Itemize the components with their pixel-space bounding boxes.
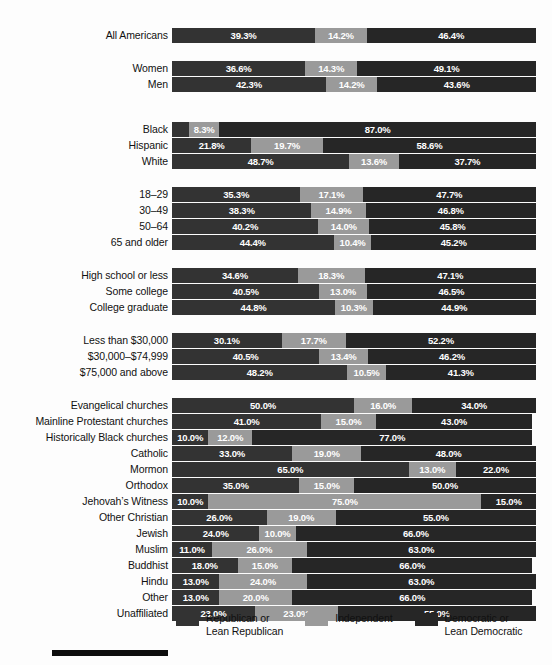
bar-segment-ind: 75.0% — [208, 494, 481, 509]
bar-segment-ind: 13.6% — [349, 154, 399, 169]
bar-segment-rep: 44.4% — [172, 235, 334, 250]
bar-segment-dem: 63.0% — [307, 542, 536, 557]
bar-segment-rep: 48.7% — [172, 154, 349, 169]
bar-segment-ind: 10.3% — [335, 300, 372, 315]
row-label: All Americans — [0, 28, 172, 43]
bar-segment-dem: 63.0% — [307, 574, 536, 589]
row-label: Muslim — [0, 542, 172, 557]
chart-row: Buddhist18.0%15.0%66.0% — [0, 558, 552, 573]
row-label: Other Christian — [0, 510, 172, 525]
chart-row: All Americans39.3%14.2%46.4% — [0, 28, 552, 43]
bar-segment-ind: 13.4% — [319, 349, 368, 364]
row-label: Historically Black churches — [0, 430, 172, 445]
stacked-bar: 24.0%10.0%66.0% — [172, 526, 536, 541]
row-label: Black — [0, 122, 172, 137]
bar-segment-rep: 39.3% — [172, 28, 315, 43]
bar-segment-dem: 66.0% — [292, 558, 532, 573]
row-label: $30,000–$74,999 — [0, 349, 172, 364]
bar-segment-rep: 48.2% — [172, 365, 347, 380]
bar-segment-rep: 40.2% — [172, 219, 318, 234]
bar-segment-ind: 15.0% — [321, 414, 376, 429]
stacked-bar: 65.0%13.0%22.0% — [172, 462, 536, 477]
bar-segment-dem: 66.0% — [296, 526, 536, 541]
stacked-bar: 44.8%10.3%44.9% — [172, 300, 536, 315]
bar-segment-dem: 34.0% — [412, 398, 536, 413]
row-label: Mormon — [0, 462, 172, 477]
bar-segment-ind: 26.0% — [212, 542, 307, 557]
stacked-bar: 33.0%19.0%48.0% — [172, 446, 536, 461]
row-label: Hispanic — [0, 138, 172, 153]
legend-label: Democratic or Lean Democratic — [445, 612, 523, 638]
row-label: Men — [0, 77, 172, 92]
row-label: Mainline Protestant churches — [0, 414, 172, 429]
bar-segment-ind: 14.9% — [311, 203, 365, 218]
legend-item: Democratic or Lean Democratic — [415, 612, 523, 638]
bar-segment-dem: 47.7% — [363, 187, 536, 202]
bar-segment-rep: 21.8% — [172, 138, 251, 153]
row-label: 50–64 — [0, 219, 172, 234]
stacked-bar: 30.1%17.7%52.2% — [172, 333, 536, 348]
chart-row: White48.7%13.6%37.7% — [0, 154, 552, 169]
stacked-bar: 44.4%10.4%45.2% — [172, 235, 536, 250]
bar-segment-ind: 16.0% — [354, 398, 412, 413]
bar-segment-dem: 46.4% — [367, 28, 536, 43]
bar-segment-rep: 4.7% — [172, 122, 189, 137]
bar-segment-ind: 15.0% — [238, 558, 293, 573]
bar-segment-rep: 11.0% — [172, 542, 212, 557]
stacked-bar: 39.3%14.2%46.4% — [172, 28, 536, 43]
bar-segment-dem: 46.5% — [367, 284, 536, 299]
bar-segment-dem: 43.0% — [376, 414, 533, 429]
bar-segment-rep: 50.0% — [172, 398, 354, 413]
bar-segment-ind: 8.3% — [189, 122, 219, 137]
stacked-bar: 50.0%16.0%34.0% — [172, 398, 536, 413]
chart-row: Black4.7%8.3%87.0%4.7% — [0, 122, 552, 137]
bar-segment-dem: 55.0% — [336, 510, 536, 525]
bar-segment-rep: 35.0% — [172, 478, 299, 493]
row-label: High school or less — [0, 268, 172, 283]
bar-segment-rep: 42.3% — [172, 77, 326, 92]
row-label: Unaffiliated — [0, 606, 172, 621]
stacked-bar: 36.6%14.3%49.1% — [172, 61, 536, 76]
bar-segment-rep: 65.0% — [172, 462, 409, 477]
bar-segment-dem: 45.8% — [369, 219, 536, 234]
stacked-bar: 10.0%12.0%77.0% — [172, 430, 536, 445]
bar-segment-dem: 48.0% — [361, 446, 536, 461]
row-label: Jehovah’s Witness — [0, 494, 172, 509]
row-label: $75,000 and above — [0, 365, 172, 380]
chart-row: Hindu13.0%24.0%63.0% — [0, 574, 552, 589]
bar-segment-dem: 45.2% — [371, 235, 536, 250]
chart-row: Less than $30,00030.1%17.7%52.2% — [0, 333, 552, 348]
bar-segment-rep: 36.6% — [172, 61, 305, 76]
bar-segment-dem: 47.1% — [365, 268, 536, 283]
stacked-bar: 35.3%17.1%47.7% — [172, 187, 536, 202]
row-label: White — [0, 154, 172, 169]
row-label: Buddhist — [0, 558, 172, 573]
bar-segment-rep: 35.3% — [172, 187, 300, 202]
chart-row: High school or less34.6%18.3%47.1% — [0, 268, 552, 283]
bar-segment-rep: 26.0% — [172, 510, 267, 525]
bar-segment-rep: 44.8% — [172, 300, 335, 315]
row-label: 65 and older — [0, 235, 172, 250]
chart-row: Orthodox35.0%15.0%50.0% — [0, 478, 552, 493]
row-label: Orthodox — [0, 478, 172, 493]
chart-row: $30,000–$74,99940.5%13.4%46.2% — [0, 349, 552, 364]
bar-segment-rep: 40.5% — [172, 284, 319, 299]
bar-segment-ind: 13.0% — [319, 284, 366, 299]
stacked-bar: 4.7%8.3%87.0%4.7% — [172, 122, 536, 137]
chart-row: Hispanic21.8%19.7%58.6% — [0, 138, 552, 153]
chart-row: Other Christian26.0%19.0%55.0% — [0, 510, 552, 525]
legend-item: Independent — [305, 612, 392, 626]
bar-segment-rep: 10.0% — [172, 430, 208, 445]
row-label: 30–49 — [0, 203, 172, 218]
stacked-bar: 35.0%15.0%50.0% — [172, 478, 536, 493]
chart-legend: Republican or Lean RepublicanIndependent… — [176, 612, 552, 646]
bar-segment-rep: 33.0% — [172, 446, 292, 461]
stacked-bar: 11.0%26.0%63.0% — [172, 542, 536, 557]
stacked-bar: 21.8%19.7%58.6% — [172, 138, 536, 153]
bar-segment-dem: 77.0% — [252, 430, 532, 445]
chart-row: Women36.6%14.3%49.1% — [0, 61, 552, 76]
bar-segment-ind: 14.2% — [326, 77, 378, 92]
row-label: 18–29 — [0, 187, 172, 202]
bar-segment-rep: 40.5% — [172, 349, 319, 364]
bar-segment-dem: 41.3% — [386, 365, 536, 380]
